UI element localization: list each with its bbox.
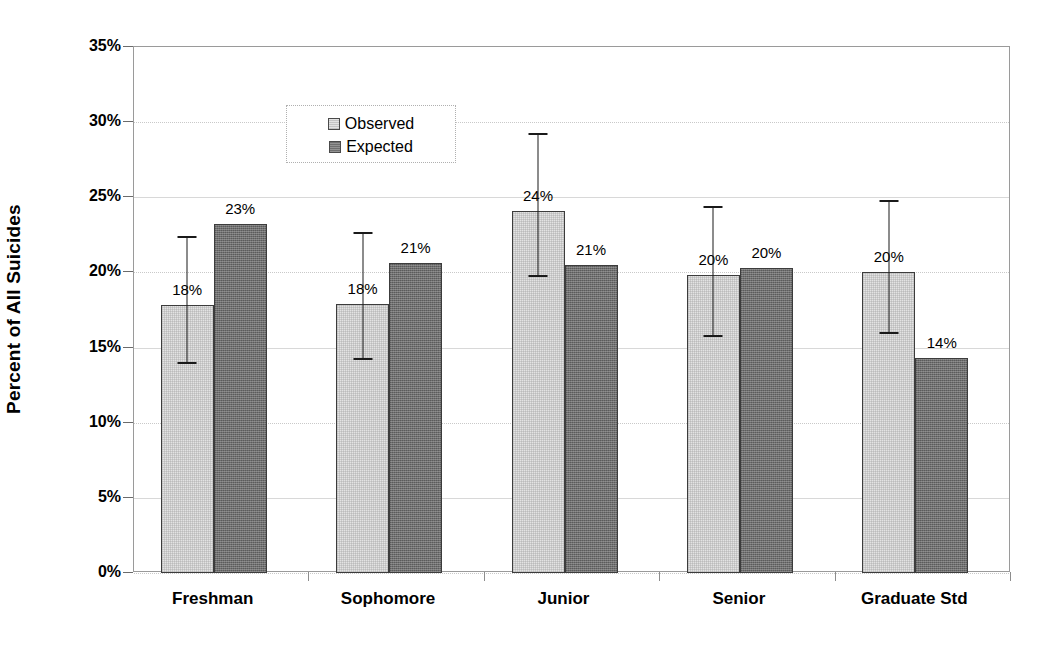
y-axis-tick-label: 5% (55, 488, 121, 506)
x-axis-label-graduate-std: Graduate Std (861, 589, 968, 609)
error-bar-stem (888, 200, 889, 334)
error-bar (175, 236, 199, 364)
legend-label-expected: Expected (346, 139, 413, 155)
y-axis-title: Percent of All Suicides (0, 46, 28, 572)
bar-chart: Percent of All Suicides 0%5%10%15%20%25%… (0, 0, 1047, 645)
legend-item-observed: Observed (287, 112, 455, 135)
legend-item-expected: Expected (287, 135, 455, 158)
bar-expected-graduate-std (915, 358, 968, 573)
y-axis-tick-label: 10% (55, 413, 121, 431)
bar-expected-freshman (214, 224, 267, 573)
error-bar (877, 200, 901, 334)
y-axis-tick-mark (123, 497, 133, 498)
x-axis-label-freshman: Freshman (172, 589, 253, 609)
x-axis-label-senior: Senior (712, 589, 765, 609)
x-axis-label-junior: Junior (538, 589, 590, 609)
error-bar-stem (713, 206, 714, 337)
x-axis-tick-mark (484, 572, 485, 581)
y-axis-tick-mark (123, 347, 133, 348)
error-bar-cap-bottom (178, 362, 197, 364)
bar-value-label: 23% (225, 200, 255, 217)
x-axis-tick-mark (1010, 572, 1011, 581)
bar-value-label: 20% (751, 244, 781, 261)
bar-value-label: 21% (401, 239, 431, 256)
x-axis-tick-mark (659, 572, 660, 581)
error-bar (351, 232, 375, 360)
y-axis-tick-mark (123, 572, 133, 573)
gridline (134, 197, 1009, 198)
error-bar-stem (187, 236, 188, 364)
x-axis-label-sophomore: Sophomore (341, 589, 435, 609)
error-bar-cap-bottom (879, 332, 898, 334)
y-axis-tick-label: 15% (55, 338, 121, 356)
y-axis-tick-label: 35% (55, 37, 121, 55)
legend-label-observed: Observed (345, 116, 414, 132)
y-axis-tick-mark (123, 422, 133, 423)
error-bar-stem (538, 133, 539, 277)
y-axis-tick-label: 30% (55, 112, 121, 130)
y-axis-tick-mark (123, 196, 133, 197)
legend-swatch-expected-icon (329, 141, 341, 153)
bar-value-label: 21% (576, 241, 606, 258)
x-axis-tick-mark (308, 572, 309, 581)
bar-expected-senior (740, 268, 793, 573)
error-bar-stem (362, 232, 363, 360)
error-bar (701, 206, 725, 337)
y-axis-tick-mark (123, 271, 133, 272)
error-bar-cap-bottom (353, 358, 372, 360)
bar-value-label: 14% (927, 334, 957, 351)
y-axis-tick-mark (123, 46, 133, 47)
y-axis-tick-label: 25% (55, 187, 121, 205)
error-bar (526, 133, 550, 277)
error-bar-cap-bottom (704, 335, 723, 337)
chart-legend: Observed Expected (286, 105, 456, 163)
error-bar-cap-bottom (529, 275, 548, 277)
legend-swatch-observed-icon (328, 118, 340, 130)
plot-area: 18%23%18%21%24%21%20%20%20%14% Observed … (133, 46, 1010, 572)
gridline (134, 122, 1009, 123)
y-axis-tick-label: 0% (55, 563, 121, 581)
y-axis-tick-label: 20% (55, 262, 121, 280)
x-axis-tick-mark (835, 572, 836, 581)
gridline (134, 573, 1009, 574)
y-axis-tick-mark (123, 121, 133, 122)
bar-expected-junior (565, 265, 618, 573)
bar-expected-sophomore (389, 263, 442, 573)
